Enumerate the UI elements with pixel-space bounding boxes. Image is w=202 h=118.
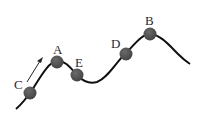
track-diagram: C A E D B [0,0,202,118]
label-a: A [53,42,63,57]
label-c: C [14,77,23,92]
ball-c [24,87,37,100]
ball-e [71,69,84,82]
label-b: B [145,13,154,28]
track-curve [16,34,190,109]
diagram-canvas: C A E D B [0,0,202,118]
ball-a [51,56,64,69]
label-e: E [75,55,83,70]
ball-d [120,48,133,61]
ball-b [144,28,157,41]
label-d: D [111,36,120,51]
